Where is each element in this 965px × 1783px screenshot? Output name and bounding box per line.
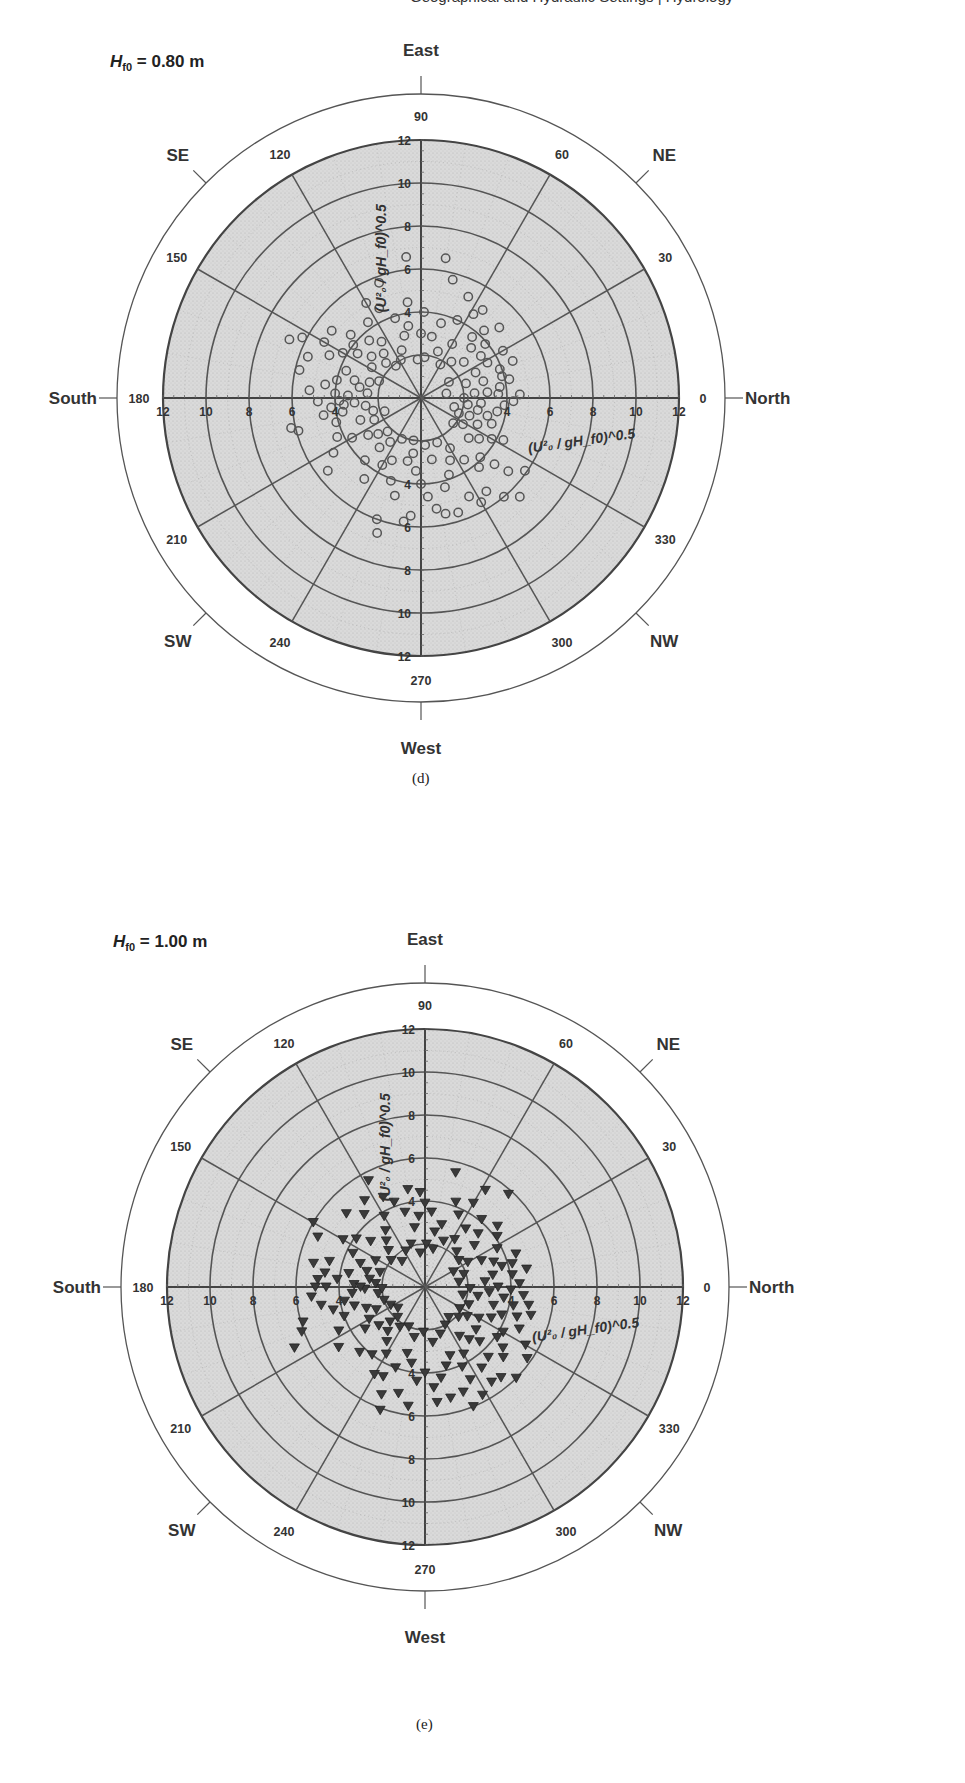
svg-text:6: 6 <box>289 405 296 419</box>
svg-text:8: 8 <box>250 1294 257 1308</box>
svg-text:12: 12 <box>402 1539 416 1553</box>
angle-label: 330 <box>655 533 676 547</box>
svg-text:6: 6 <box>293 1294 300 1308</box>
svg-text:4: 4 <box>336 1294 343 1308</box>
svg-text:12: 12 <box>398 650 412 664</box>
svg-text:4: 4 <box>404 306 411 320</box>
svg-text:10: 10 <box>629 405 643 419</box>
angle-label: 60 <box>559 1037 573 1051</box>
svg-text:12: 12 <box>156 405 170 419</box>
compass-label: NW <box>654 1521 683 1540</box>
angle-label: 120 <box>270 148 291 162</box>
angle-label: 210 <box>170 1422 191 1436</box>
svg-text:12: 12 <box>672 405 686 419</box>
compass-label: South <box>49 389 97 408</box>
polar-chart-e: Hf0 = 1.00 m 444466668888101010101212121… <box>0 890 965 1783</box>
svg-text:8: 8 <box>590 405 597 419</box>
angle-label: 0 <box>700 392 707 406</box>
svg-text:8: 8 <box>408 1109 415 1123</box>
compass-label: North <box>745 389 790 408</box>
svg-text:12: 12 <box>160 1294 174 1308</box>
svg-text:6: 6 <box>404 521 411 535</box>
svg-text:8: 8 <box>246 405 253 419</box>
radial-axis-label: (U²₀ / gH_f0)^0.5 <box>377 1093 393 1201</box>
svg-text:8: 8 <box>594 1294 601 1308</box>
svg-text:6: 6 <box>404 263 411 277</box>
svg-text:10: 10 <box>402 1496 416 1510</box>
compass-label: East <box>403 41 439 60</box>
polar-chart-d: Hf0 = 0.80 m 444466668888101010101212121… <box>0 0 965 890</box>
angle-label: 300 <box>556 1525 577 1539</box>
svg-text:10: 10 <box>398 177 412 191</box>
compass-label: East <box>407 930 443 949</box>
compass-label: North <box>749 1278 794 1297</box>
compass-label: NW <box>650 632 679 651</box>
svg-text:4: 4 <box>404 478 411 492</box>
svg-text:6: 6 <box>547 405 554 419</box>
svg-text:4: 4 <box>408 1367 415 1381</box>
compass-label: NE <box>652 146 676 165</box>
angle-label: 30 <box>658 251 672 265</box>
angle-label: 210 <box>166 533 187 547</box>
compass-label: NE <box>656 1035 680 1054</box>
compass-label: SW <box>164 632 192 651</box>
angle-label: 150 <box>170 1140 191 1154</box>
angle-label: 30 <box>662 1140 676 1154</box>
svg-text:8: 8 <box>408 1453 415 1467</box>
svg-text:10: 10 <box>398 607 412 621</box>
angle-label: 180 <box>133 1281 154 1295</box>
angle-label: 270 <box>415 1563 436 1577</box>
angle-label: 90 <box>418 999 432 1013</box>
chart-e-caption: (e) <box>416 1716 433 1733</box>
angle-label: 150 <box>166 251 187 265</box>
svg-text:4: 4 <box>408 1195 415 1209</box>
svg-text:8: 8 <box>404 220 411 234</box>
svg-text:10: 10 <box>633 1294 647 1308</box>
compass-label: South <box>53 1278 101 1297</box>
chart-d-svg: 4444666688881010101012121212030609012015… <box>0 0 965 890</box>
svg-text:8: 8 <box>404 564 411 578</box>
svg-text:12: 12 <box>402 1023 416 1037</box>
svg-text:4: 4 <box>332 405 339 419</box>
chart-e-svg: 4444666688881010101012121212030609012015… <box>0 890 965 1783</box>
angle-label: 60 <box>555 148 569 162</box>
compass-label: West <box>401 739 442 758</box>
svg-text:4: 4 <box>504 405 511 419</box>
compass-label: SE <box>170 1035 193 1054</box>
angle-label: 90 <box>414 110 428 124</box>
svg-text:10: 10 <box>199 405 213 419</box>
svg-text:10: 10 <box>203 1294 217 1308</box>
svg-text:12: 12 <box>676 1294 690 1308</box>
angle-label: 180 <box>129 392 150 406</box>
angle-label: 0 <box>704 1281 711 1295</box>
radial-axis-label: (U²₀ / gH_f0)^0.5 <box>373 204 389 312</box>
angle-label: 240 <box>270 636 291 650</box>
compass-label: SW <box>168 1521 196 1540</box>
svg-text:6: 6 <box>408 1410 415 1424</box>
angle-label: 330 <box>659 1422 680 1436</box>
compass-label: West <box>405 1628 446 1647</box>
svg-text:10: 10 <box>402 1066 416 1080</box>
svg-text:4: 4 <box>508 1294 515 1308</box>
svg-text:6: 6 <box>551 1294 558 1308</box>
angle-label: 240 <box>274 1525 295 1539</box>
compass-label: SE <box>166 146 189 165</box>
angle-label: 300 <box>552 636 573 650</box>
svg-text:6: 6 <box>408 1152 415 1166</box>
angle-label: 120 <box>274 1037 295 1051</box>
chart-d-caption: (d) <box>412 770 430 787</box>
angle-label: 270 <box>411 674 432 688</box>
svg-text:12: 12 <box>398 134 412 148</box>
